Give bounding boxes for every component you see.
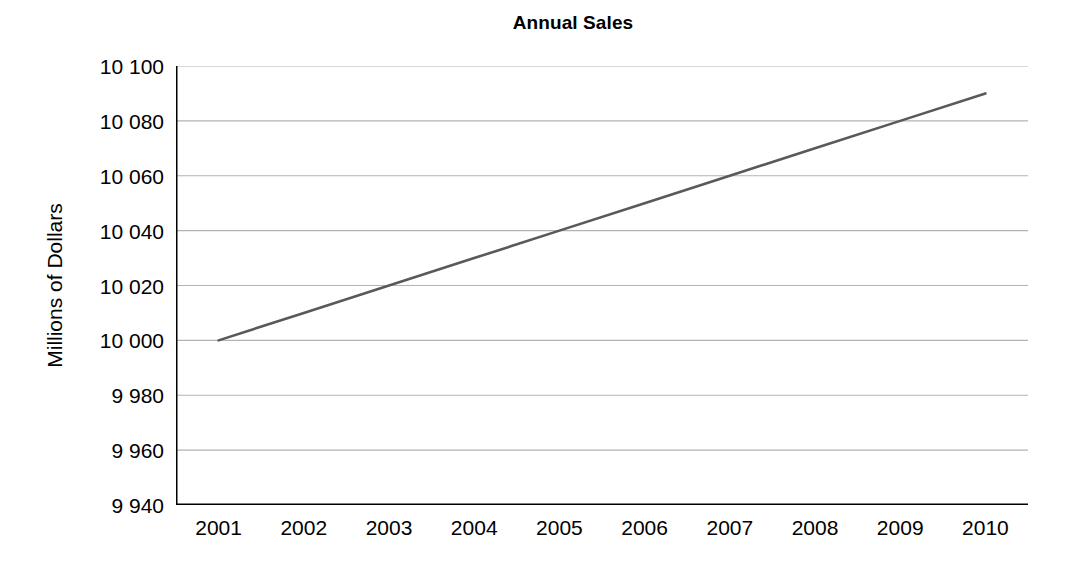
x-axis-tick-labels: 2001200220032004200520062007200820092010 (176, 513, 1028, 545)
y-tick-label: 10 060 (44, 165, 164, 186)
plot-svg (176, 66, 1028, 505)
y-axis-tick-labels: 9 9409 9609 98010 00010 02010 04010 0601… (36, 66, 164, 505)
plot-area (176, 66, 1028, 505)
gridlines (176, 66, 1028, 450)
x-tick-label: 2009 (858, 513, 943, 545)
x-tick-label: 2006 (602, 513, 687, 545)
y-tick-label: 10 020 (44, 275, 164, 296)
x-tick-label: 2002 (261, 513, 346, 545)
x-tick-label: 2003 (346, 513, 431, 545)
x-tick-label: 2001 (176, 513, 261, 545)
y-tick-label: 9 960 (44, 440, 164, 461)
x-tick-label: 2010 (943, 513, 1028, 545)
data-series-line (219, 93, 986, 340)
x-tick-label: 2004 (432, 513, 517, 545)
y-tick-label: 10 040 (44, 220, 164, 241)
x-tick-label: 2007 (687, 513, 772, 545)
y-tick-label: 9 940 (44, 495, 164, 516)
y-tick-label: 9 980 (44, 385, 164, 406)
y-tick-label: 10 000 (44, 330, 164, 351)
y-tick-label: 10 080 (44, 110, 164, 131)
annual-sales-line-chart: Annual Sales Millions of Dollars 9 9409 … (0, 0, 1071, 579)
chart-title: Annual Sales (0, 12, 1071, 34)
x-tick-label: 2008 (772, 513, 857, 545)
x-tick-label: 2005 (517, 513, 602, 545)
y-tick-label: 10 100 (44, 56, 164, 77)
